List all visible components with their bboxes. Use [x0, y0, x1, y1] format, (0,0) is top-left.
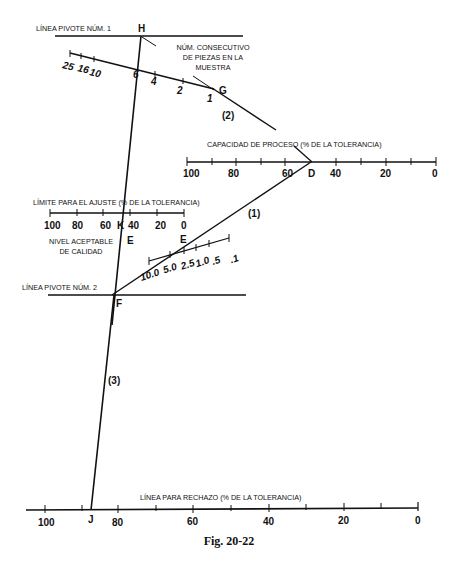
svg-text:80: 80: [72, 220, 84, 231]
svg-text:20: 20: [380, 168, 392, 179]
svg-text:0: 0: [432, 168, 438, 179]
sample-tick-6: 6: [133, 69, 139, 80]
pivot-line-2-label: LÍNEA PIVOTE NÚM. 2: [22, 283, 97, 292]
sample-tick-2: 2: [176, 85, 183, 96]
point-g-label: G: [219, 85, 227, 96]
svg-text:80: 80: [112, 517, 124, 528]
sample-tick-4: 4: [150, 76, 157, 87]
svg-text:5.0: 5.0: [161, 261, 178, 276]
svg-text:DE CALIDAD: DE CALIDAD: [59, 247, 102, 256]
pivot-line-1: LÍNEA PIVOTE NÚM. 1 H: [36, 23, 243, 36]
svg-text:0: 0: [181, 220, 187, 231]
svg-text:40: 40: [263, 516, 275, 527]
svg-text:100: 100: [183, 168, 200, 179]
capacity-scale-label: CAPACIDAD DE PROCESO (% DE LA TOLERANCIA…: [207, 140, 382, 149]
point-j-label: J: [88, 514, 94, 525]
svg-text:10.0: 10.0: [139, 266, 161, 283]
segment-label-3: (3): [108, 375, 120, 386]
reject-scale-label: LÍNEA PARA RECHAZO (% DE LA TOLERANCIA): [140, 493, 301, 502]
process-capacity-scale: CAPACIDAD DE PROCESO (% DE LA TOLERANCIA…: [183, 140, 438, 179]
svg-text:NIVEL ACEPTABLE: NIVEL ACEPTABLE: [49, 237, 113, 246]
point-e-label: E: [180, 234, 187, 245]
svg-text:20: 20: [338, 515, 350, 526]
svg-text:.5: .5: [210, 254, 222, 267]
segment-label-2: (2): [222, 110, 234, 121]
adjust-scale-label: LÍMITE PARA EL AJUSTE (% DE LA TOLERANCI…: [33, 198, 200, 207]
sample-tick-1: 1: [207, 93, 213, 104]
line-g-to-capacity: [212, 88, 276, 130]
svg-text:40: 40: [330, 168, 342, 179]
figure-caption: Fig. 20-22: [204, 534, 255, 548]
pivot-line-2: LÍNEA PIVOTE NÚM. 2 F: [22, 283, 246, 309]
svg-text:100: 100: [38, 517, 55, 528]
sample-tick-10: 10: [89, 66, 103, 79]
aql-e-label: E: [127, 235, 134, 246]
svg-text:60: 60: [100, 220, 112, 231]
svg-text:60: 60: [187, 516, 199, 527]
svg-text:0: 0: [415, 515, 421, 526]
svg-text:MUESTRA: MUESTRA: [195, 63, 230, 72]
point-d-label: D: [308, 168, 315, 179]
point-k-label: K: [117, 220, 125, 231]
svg-text:80: 80: [228, 168, 240, 179]
svg-text:DE PIEZAS EN LA: DE PIEZAS EN LA: [183, 53, 244, 62]
point-f-label: F: [116, 298, 122, 309]
svg-text:40: 40: [128, 220, 140, 231]
segment-label-1: (1): [248, 208, 260, 219]
svg-text:20: 20: [155, 220, 167, 231]
pivot-line-1-label: LÍNEA PIVOTE NÚM. 1: [36, 24, 111, 33]
svg-text:100: 100: [44, 220, 61, 231]
adjustment-limit-scale: LÍMITE PARA EL AJUSTE (% DE LA TOLERANCI…: [33, 198, 200, 231]
svg-text:.1: .1: [229, 252, 241, 265]
reject-scale: LÍNEA PARA RECHAZO (% DE LA TOLERANCIA) …: [26, 493, 421, 528]
point-h-label: H: [138, 23, 145, 34]
nomograph: LÍNEA PIVOTE NÚM. 1 H 25 16 10 6 4 2 1 G…: [0, 0, 457, 567]
sample-scale-caption: NÚM. CONSECUTIVO DE PIEZAS EN LA MUESTRA: [176, 43, 249, 72]
svg-text:NÚM. CONSECUTIVO: NÚM. CONSECUTIVO: [176, 43, 249, 52]
line-f-to-j: [91, 295, 114, 510]
sample-tick-25: 25: [61, 59, 76, 73]
svg-text:1.0: 1.0: [194, 254, 211, 269]
